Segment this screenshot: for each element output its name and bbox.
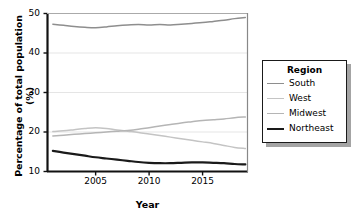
legend[interactable]: Region SouthWestMidwestNortheast xyxy=(262,60,347,143)
series-line-midwest xyxy=(53,117,246,136)
legend-item-midwest[interactable]: Midwest xyxy=(267,107,346,120)
legend-items: SouthWestMidwestNortheast xyxy=(263,77,346,135)
legend-item-west[interactable]: West xyxy=(267,92,346,105)
legend-swatch-northeast xyxy=(267,128,284,130)
legend-label: Midwest xyxy=(289,108,326,119)
legend-swatch-midwest xyxy=(267,113,284,114)
legend-label: West xyxy=(289,93,311,104)
legend-label: Northeast xyxy=(289,123,333,134)
legend-item-northeast[interactable]: Northeast xyxy=(267,122,346,135)
series-line-west xyxy=(53,128,246,149)
gridlines xyxy=(44,14,248,176)
legend-swatch-west xyxy=(267,98,284,99)
series-line-south xyxy=(53,17,246,27)
series-line-northeast xyxy=(53,151,246,164)
series-lines xyxy=(53,17,246,164)
legend-title: Region xyxy=(263,65,346,75)
legend-swatch-south xyxy=(267,83,284,84)
legend-item-south[interactable]: South xyxy=(267,77,346,90)
chart-container: Percentage of total population (%) Year … xyxy=(0,0,355,219)
legend-label: South xyxy=(289,78,315,89)
